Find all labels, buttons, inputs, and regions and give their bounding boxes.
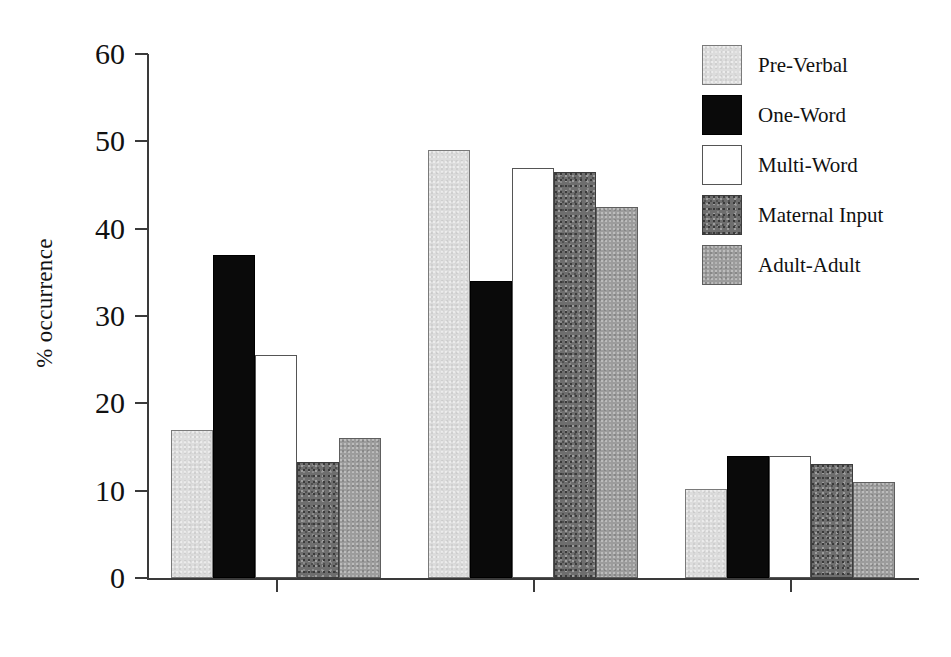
x-tick-bilabials	[276, 580, 278, 592]
y-tick-30: 30	[135, 315, 148, 317]
y-tick-label-0: 0	[110, 561, 125, 595]
legend-swatch-icon-gray-speckle	[702, 245, 742, 285]
legend-swatch-icon-dark-mottled	[702, 195, 742, 235]
bar-alveolars-maternal-input	[554, 172, 596, 578]
legend-swatch-icon-black	[702, 95, 742, 135]
bar-velars-adult-adult	[853, 482, 895, 578]
x-tick-alveolars	[533, 580, 535, 592]
bar-alveolars-adult-adult	[596, 207, 638, 578]
y-tick-10: 10	[135, 490, 148, 492]
y-axis-label: % occurrence	[32, 203, 58, 403]
legend-swatch-icon-light-speckle	[702, 45, 742, 85]
y-tick-50: 50	[135, 140, 148, 142]
bar-alveolars-one-word	[470, 281, 512, 578]
legend-item-pre-verbal[interactable]: Pre-Verbal	[702, 40, 948, 90]
legend-item-one-word[interactable]: One-Word	[702, 90, 948, 140]
legend-label: One-Word	[758, 103, 846, 128]
bar-alveolars-multi-word	[512, 168, 554, 578]
bar-velars-one-word	[727, 456, 769, 578]
bar-alveolars-pre-verbal	[428, 150, 470, 578]
legend-label: Adult-Adult	[758, 253, 861, 278]
legend-label: Maternal Input	[758, 203, 883, 228]
x-tick-velars	[790, 580, 792, 592]
chart-legend: Pre-VerbalOne-WordMulti-WordMaternal Inp…	[702, 40, 948, 290]
legend-item-multi-word[interactable]: Multi-Word	[702, 140, 948, 190]
bar-velars-pre-verbal	[685, 489, 727, 578]
legend-swatch-icon-white	[702, 145, 742, 185]
bar-bilabials-one-word	[213, 255, 255, 578]
bar-bilabials-adult-adult	[339, 438, 381, 578]
bar-chart: % occurrence 0102030405060 bilabialsalve…	[0, 0, 951, 657]
bar-bilabials-maternal-input	[297, 462, 339, 578]
y-tick-label-60: 60	[95, 37, 125, 71]
y-tick-label-50: 50	[95, 124, 125, 158]
y-tick-label-20: 20	[95, 386, 125, 420]
y-tick-label-10: 10	[95, 474, 125, 508]
y-tick-0: 0	[135, 577, 148, 579]
legend-label: Multi-Word	[758, 153, 858, 178]
legend-label: Pre-Verbal	[758, 53, 848, 78]
bar-velars-multi-word	[769, 456, 811, 578]
y-tick-label-40: 40	[95, 212, 125, 246]
y-tick-40: 40	[135, 228, 148, 230]
y-tick-20: 20	[135, 402, 148, 404]
legend-item-adult-adult[interactable]: Adult-Adult	[702, 240, 948, 290]
bar-velars-maternal-input	[811, 464, 853, 578]
bar-bilabials-pre-verbal	[171, 430, 213, 578]
y-tick-60: 60	[135, 53, 148, 55]
legend-item-maternal-input[interactable]: Maternal Input	[702, 190, 948, 240]
y-tick-label-30: 30	[95, 299, 125, 333]
bar-bilabials-multi-word	[255, 355, 297, 578]
